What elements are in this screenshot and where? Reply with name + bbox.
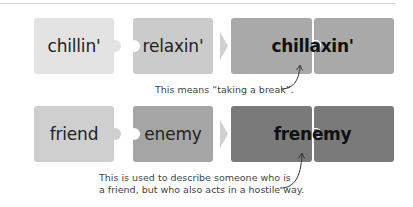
puzzle-result: frenemy bbox=[231, 106, 394, 162]
result-label: frenemy bbox=[231, 106, 394, 162]
word2-label: enemy bbox=[144, 124, 201, 144]
word1-label: chillin' bbox=[48, 36, 101, 56]
puzzle-piece-word1: friend bbox=[34, 106, 114, 162]
right-chevron-arrow-icon bbox=[220, 32, 228, 60]
puzzle-tab-icon bbox=[109, 128, 121, 140]
caption-line: This is used to describe someone who is bbox=[99, 172, 304, 184]
caption-chillaxin: This means “taking a break”. bbox=[155, 84, 294, 96]
top-divider bbox=[0, 3, 395, 4]
puzzle-notch-icon bbox=[128, 128, 140, 140]
puzzle-tab-icon bbox=[109, 40, 121, 52]
caption-frenemy: This is used to describe someone who is … bbox=[99, 172, 304, 196]
result-label: chillaxin' bbox=[231, 18, 394, 74]
puzzle-piece-word2: enemy bbox=[133, 106, 213, 162]
caption-line: This means “taking a break”. bbox=[155, 84, 294, 95]
puzzle-notch-icon bbox=[128, 40, 140, 52]
word1-label: friend bbox=[50, 124, 99, 144]
puzzle-piece-word2: relaxin' bbox=[133, 18, 213, 74]
right-chevron-arrow-icon bbox=[220, 120, 228, 148]
word2-label: relaxin' bbox=[143, 36, 204, 56]
caption-line: a friend, but who also acts in a hostile… bbox=[99, 184, 304, 196]
puzzle-piece-word1: chillin' bbox=[34, 18, 114, 74]
puzzle-result: chillaxin' bbox=[231, 18, 394, 74]
